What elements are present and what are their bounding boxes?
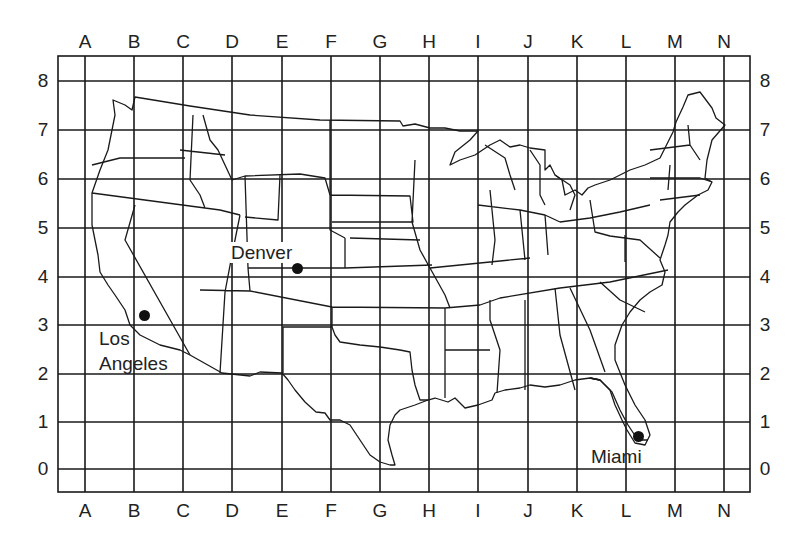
col-label-m: M (660, 32, 690, 51)
city-label-angeles: Angeles (99, 353, 168, 374)
col-label-e: E (267, 501, 297, 520)
row-label-1: 1 (33, 412, 53, 431)
row-label-5: 5 (33, 218, 53, 237)
texas (283, 327, 428, 400)
row-label-2: 2 (33, 364, 53, 383)
row-label-3: 3 (755, 315, 775, 334)
state-lines-central (245, 120, 450, 327)
row-label-1: 1 (755, 412, 775, 431)
us-map-grid (0, 0, 805, 547)
city-label-miami: Miami (591, 446, 642, 467)
row-label-0: 0 (755, 459, 775, 478)
state-lines-east (430, 125, 712, 398)
city-dot-icon (139, 310, 150, 321)
col-label-c: C (168, 32, 198, 51)
col-label-i: I (463, 501, 493, 520)
col-label-b: B (119, 32, 149, 51)
col-label-n: N (709, 501, 739, 520)
col-label-k: K (562, 32, 592, 51)
col-label-n: N (709, 32, 739, 51)
col-label-f: F (316, 501, 346, 520)
col-label-b: B (119, 501, 149, 520)
city-label-los: Los (99, 328, 130, 349)
col-label-i: I (463, 32, 493, 51)
row-label-6: 6 (33, 169, 53, 188)
col-label-g: G (365, 501, 395, 520)
row-label-2: 2 (755, 364, 775, 383)
col-label-e: E (267, 32, 297, 51)
city-label-denver: Denver (230, 242, 293, 263)
great-lakes (485, 145, 575, 210)
col-label-d: D (217, 32, 247, 51)
col-label-d: D (217, 501, 247, 520)
row-label-7: 7 (33, 120, 53, 139)
col-label-j: J (513, 32, 543, 51)
us-outline (92, 92, 725, 465)
row-label-7: 7 (755, 120, 775, 139)
row-label-3: 3 (33, 315, 53, 334)
row-label-5: 5 (755, 218, 775, 237)
col-label-m: M (660, 501, 690, 520)
col-label-a: A (70, 32, 100, 51)
city-dot-icon (633, 431, 644, 442)
col-label-l: L (611, 32, 641, 51)
col-label-g: G (365, 32, 395, 51)
col-label-h: H (414, 32, 444, 51)
col-label-j: J (513, 501, 543, 520)
city-dot-icon (292, 263, 303, 274)
row-label-8: 8 (33, 71, 53, 90)
col-label-h: H (414, 501, 444, 520)
col-label-c: C (168, 501, 198, 520)
col-label-l: L (611, 501, 641, 520)
row-label-4: 4 (33, 267, 53, 286)
row-label-8: 8 (755, 71, 775, 90)
row-label-4: 4 (755, 267, 775, 286)
col-label-f: F (316, 32, 346, 51)
col-label-k: K (562, 501, 592, 520)
row-label-0: 0 (33, 459, 53, 478)
row-label-6: 6 (755, 169, 775, 188)
col-label-a: A (70, 501, 100, 520)
